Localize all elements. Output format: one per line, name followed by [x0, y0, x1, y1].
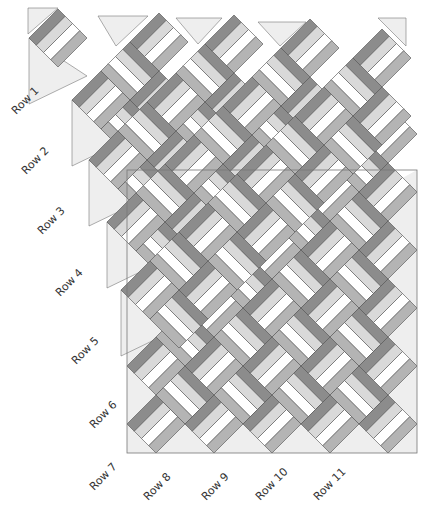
rail-fence-blocks [29, 9, 417, 453]
quilt-diagram [0, 0, 423, 510]
